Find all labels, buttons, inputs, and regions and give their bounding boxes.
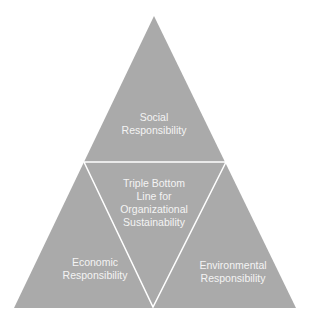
center-line1: Triple Bottom [104,177,204,190]
center-line2: Line for [104,190,204,203]
social-line2: Responsibility [104,124,204,137]
economic-responsibility-label: Economic Responsibility [50,256,140,282]
economic-line2: Responsibility [50,269,140,282]
center-line3: Organizational [104,203,204,216]
social-line1: Social [104,111,204,124]
triple-bottom-line-label: Triple Bottom Line for Organizational Su… [104,177,204,229]
economic-line1: Economic [50,256,140,269]
environmental-line2: Responsibility [188,272,278,285]
environmental-responsibility-label: Environmental Responsibility [188,259,278,285]
social-responsibility-label: Social Responsibility [104,111,204,137]
center-line4: Sustainability [104,216,204,229]
environmental-line1: Environmental [188,259,278,272]
